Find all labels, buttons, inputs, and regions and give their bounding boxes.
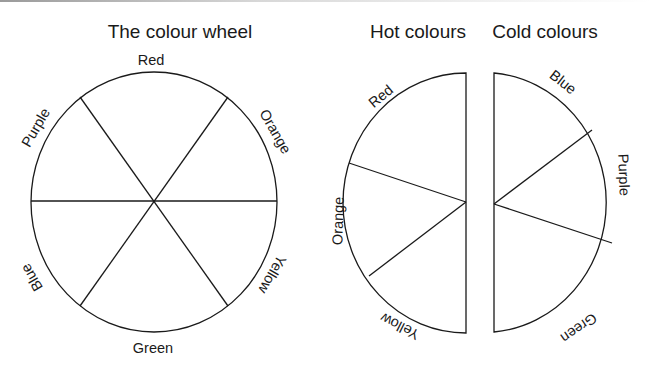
cold-colours-title: Cold colours xyxy=(492,21,598,42)
cold-semicircle xyxy=(494,73,606,332)
wheel-label-green: Green xyxy=(133,340,173,356)
colour-diagrams: The colour wheel Red Orange Yellow Green… xyxy=(0,0,652,384)
cold-label-blue: Blue xyxy=(547,67,580,97)
colour-wheel-title: The colour wheel xyxy=(108,21,253,42)
hot-colours: Hot colours Red Orange Yellow xyxy=(329,21,466,343)
cold-colours: Cold colours Blue Purple Green xyxy=(492,21,633,346)
wheel-label-red: Red xyxy=(138,52,165,68)
hot-label-orange: Orange xyxy=(329,196,347,245)
cold-label-purple: Purple xyxy=(615,154,632,196)
hot-semicircle xyxy=(343,73,466,333)
cold-label-green: Green xyxy=(558,310,600,346)
hot-colours-title: Hot colours xyxy=(370,21,466,42)
colour-wheel: The colour wheel Red Orange Yellow Green… xyxy=(17,21,294,356)
wheel-label-blue: Blue xyxy=(17,261,45,294)
